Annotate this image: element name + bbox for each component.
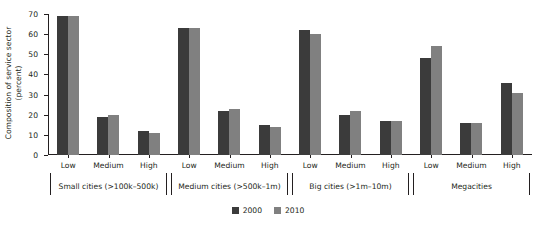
bar-2000[interactable] bbox=[138, 131, 149, 155]
chart-legend: 20002010 bbox=[0, 203, 536, 217]
group-label: Small cities (>100k–500k) bbox=[48, 182, 169, 191]
category-label: Medium bbox=[210, 159, 250, 172]
bar-pair bbox=[452, 14, 492, 155]
x-tick bbox=[310, 155, 311, 158]
group-bracket: Medium cities (>500k–1m) bbox=[169, 173, 290, 199]
y-tick-label: 30 bbox=[28, 90, 38, 99]
bar-group bbox=[48, 14, 169, 155]
legend-label: 2000 bbox=[243, 206, 262, 215]
x-tick bbox=[512, 155, 513, 158]
y-axis-title-line1: Composition of service sector bbox=[4, 26, 13, 139]
y-tick-label: 0 bbox=[33, 151, 38, 160]
bar-2000[interactable] bbox=[460, 123, 471, 155]
bar-pair bbox=[169, 14, 209, 155]
bar-2000[interactable] bbox=[57, 16, 68, 155]
y-tick-label: 60 bbox=[28, 30, 38, 39]
bar-2000[interactable] bbox=[259, 125, 270, 155]
bar-2010[interactable] bbox=[189, 28, 200, 155]
bar-pair bbox=[129, 14, 169, 155]
bar-chart: Composition of service sector (percent) … bbox=[0, 0, 536, 228]
category-label: Medium bbox=[452, 159, 492, 172]
bar-group bbox=[169, 14, 290, 155]
bar-2000[interactable] bbox=[218, 111, 229, 155]
y-tick: 0 bbox=[44, 155, 48, 156]
bar-2010[interactable] bbox=[471, 123, 482, 155]
category-label-group: LowMediumHigh bbox=[411, 159, 532, 172]
category-label: High bbox=[492, 159, 532, 172]
bar-pair bbox=[48, 14, 88, 155]
category-label-group: LowMediumHigh bbox=[48, 159, 169, 172]
category-labels: LowMediumHighLowMediumHighLowMediumHighL… bbox=[48, 159, 532, 172]
bar-pair bbox=[290, 14, 330, 155]
bar-pair bbox=[210, 14, 250, 155]
bar-pair bbox=[89, 14, 129, 155]
category-label-group: LowMediumHigh bbox=[169, 159, 290, 172]
bar-2010[interactable] bbox=[310, 34, 321, 155]
x-tick bbox=[189, 155, 190, 158]
category-label: Low bbox=[169, 159, 209, 172]
y-axis-title-text: Composition of service sector (percent) bbox=[4, 26, 24, 139]
legend-item[interactable]: 2010 bbox=[274, 206, 304, 215]
y-tick-label: 70 bbox=[28, 10, 38, 19]
bar-2000[interactable] bbox=[501, 83, 512, 156]
x-tick bbox=[68, 155, 69, 158]
legend-item[interactable]: 2000 bbox=[232, 206, 262, 215]
bar-2000[interactable] bbox=[178, 28, 189, 155]
bar-2000[interactable] bbox=[97, 117, 108, 155]
x-tick bbox=[472, 155, 473, 158]
bar-2010[interactable] bbox=[229, 109, 240, 155]
bar-pair bbox=[371, 14, 411, 155]
bar-2010[interactable] bbox=[68, 16, 79, 155]
y-tick-label: 10 bbox=[28, 130, 38, 139]
x-tick bbox=[431, 155, 432, 158]
plot-area: 010203040506070 bbox=[48, 14, 532, 155]
bar-2010[interactable] bbox=[350, 111, 361, 155]
legend-label: 2010 bbox=[285, 206, 304, 215]
group-bracket: Small cities (>100k–500k) bbox=[48, 173, 169, 199]
category-label: High bbox=[250, 159, 290, 172]
x-tick bbox=[149, 155, 150, 158]
bar-2000[interactable] bbox=[420, 58, 431, 155]
bar-pair bbox=[492, 14, 532, 155]
bar-pair bbox=[411, 14, 451, 155]
legend-swatch-icon bbox=[274, 207, 281, 214]
category-label: Medium bbox=[331, 159, 371, 172]
bar-group bbox=[411, 14, 532, 155]
category-label: High bbox=[371, 159, 411, 172]
category-label: High bbox=[129, 159, 169, 172]
bar-2010[interactable] bbox=[512, 93, 523, 155]
x-tick bbox=[391, 155, 392, 158]
group-label: Megacities bbox=[411, 182, 532, 191]
group-brackets: Small cities (>100k–500k)Medium cities (… bbox=[48, 173, 532, 199]
y-tick-label: 40 bbox=[28, 70, 38, 79]
category-label: Low bbox=[290, 159, 330, 172]
y-axis-title: Composition of service sector (percent) bbox=[0, 0, 28, 165]
legend-swatch-icon bbox=[232, 207, 239, 214]
category-label: Medium bbox=[89, 159, 129, 172]
x-tick bbox=[351, 155, 352, 158]
bar-2000[interactable] bbox=[339, 115, 350, 155]
x-tick bbox=[270, 155, 271, 158]
category-label: Low bbox=[48, 159, 88, 172]
group-bracket: Megacities bbox=[411, 173, 532, 199]
bar-2010[interactable] bbox=[108, 115, 119, 155]
bar-2010[interactable] bbox=[149, 133, 160, 155]
group-bracket: Big cities (>1m–10m) bbox=[290, 173, 411, 199]
category-label: Low bbox=[411, 159, 451, 172]
bar-2000[interactable] bbox=[299, 30, 310, 155]
x-tick bbox=[230, 155, 231, 158]
x-tick bbox=[109, 155, 110, 158]
group-label: Big cities (>1m–10m) bbox=[290, 182, 411, 191]
y-tick-label: 20 bbox=[28, 110, 38, 119]
bar-2010[interactable] bbox=[431, 46, 442, 155]
y-axis-title-line2: (percent) bbox=[14, 65, 23, 100]
bar-2010[interactable] bbox=[270, 127, 281, 155]
bar-group bbox=[290, 14, 411, 155]
bar-pair bbox=[331, 14, 371, 155]
bar-groups bbox=[48, 14, 532, 155]
bar-2010[interactable] bbox=[391, 121, 402, 155]
bar-2000[interactable] bbox=[380, 121, 391, 155]
group-label: Medium cities (>500k–1m) bbox=[169, 182, 290, 191]
bar-pair bbox=[250, 14, 290, 155]
category-label-group: LowMediumHigh bbox=[290, 159, 411, 172]
